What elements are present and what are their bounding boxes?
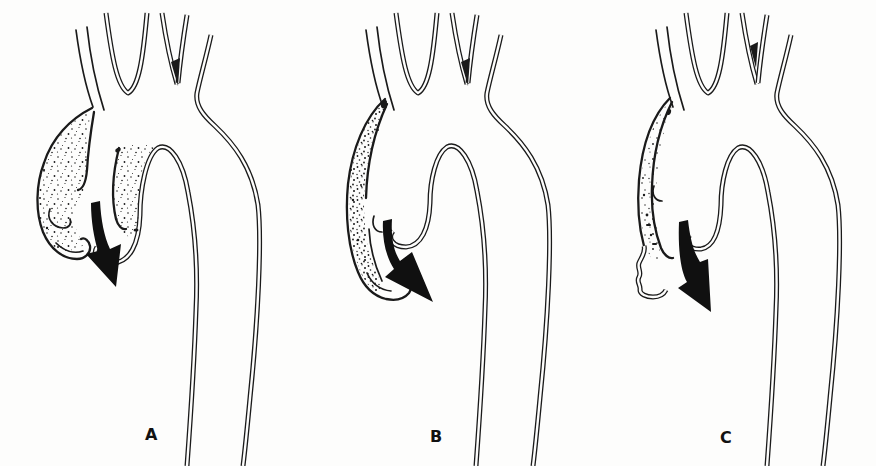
flow-arrow bbox=[678, 220, 711, 312]
panel-label-b: B bbox=[430, 429, 443, 445]
aortic-arch-and-descending-aorta bbox=[687, 35, 840, 466]
panel-label-c: C bbox=[720, 430, 733, 446]
branch-vessels bbox=[366, 13, 477, 110]
panel-c-drawing bbox=[580, 0, 876, 466]
branch-vessels bbox=[76, 13, 187, 110]
panel-c: C bbox=[580, 0, 876, 466]
panel-a-drawing bbox=[0, 0, 290, 466]
panel-b-drawing bbox=[290, 0, 580, 466]
panel-label-a: A bbox=[145, 427, 158, 443]
aortic-arch-and-descending-aorta bbox=[391, 35, 550, 466]
figure-canvas: A bbox=[0, 0, 876, 466]
branch-vessels bbox=[656, 13, 767, 110]
panel-b: B bbox=[290, 0, 580, 466]
aortic-valve-region bbox=[373, 216, 382, 232]
panel-a: A bbox=[0, 0, 290, 466]
